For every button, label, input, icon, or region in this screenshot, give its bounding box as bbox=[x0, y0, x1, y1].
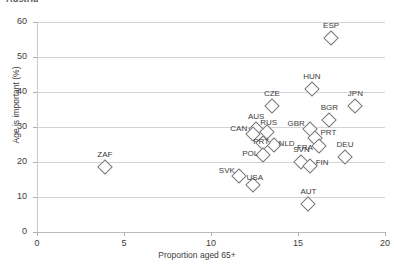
x-tick-label-20: 20 bbox=[370, 238, 394, 248]
y-axis-label: Age is important (%) bbox=[11, 45, 21, 165]
gridline-y-20 bbox=[37, 162, 385, 163]
point-label-aut: AUT bbox=[300, 187, 316, 196]
y-tick-label-40: 40 bbox=[1, 86, 27, 96]
x-tick-label-0: 0 bbox=[22, 238, 52, 248]
data-point-jpn bbox=[348, 98, 364, 114]
scatter-chart-figure: Austria Age is important (%) Proportion … bbox=[0, 0, 394, 267]
point-label-bgr: BGR bbox=[321, 103, 338, 112]
point-label-svn: SVN bbox=[293, 145, 309, 154]
gridline-y-10 bbox=[37, 197, 385, 198]
data-point-aut bbox=[301, 196, 317, 212]
point-label-esp: ESP bbox=[323, 21, 339, 30]
data-point-hun bbox=[304, 81, 320, 97]
point-label-usa: USA bbox=[247, 173, 263, 182]
point-label-can: CAN bbox=[230, 124, 247, 133]
x-tickmark-20 bbox=[385, 232, 386, 236]
data-point-cze bbox=[264, 98, 280, 114]
point-label-gbr: GBR bbox=[288, 119, 305, 128]
point-label-nld: NLD bbox=[279, 139, 295, 148]
y-tick-label-30: 30 bbox=[1, 121, 27, 131]
gridline-y-50 bbox=[37, 57, 385, 58]
point-label-fin: FIN bbox=[316, 158, 329, 167]
point-label-prt: PRT bbox=[320, 128, 336, 137]
point-label-pol: POL bbox=[242, 149, 258, 158]
x-axis-label: Proportion aged 65+ bbox=[0, 250, 394, 260]
point-label-zaf: ZAF bbox=[97, 150, 112, 159]
point-label-hun: HUN bbox=[303, 72, 320, 81]
x-tick-label-5: 5 bbox=[109, 238, 139, 248]
point-label-deu: DEU bbox=[337, 140, 354, 149]
y-tick-label-10: 10 bbox=[1, 191, 27, 201]
y-tick-label-0: 0 bbox=[1, 226, 27, 236]
point-label-prt2: PRT bbox=[253, 137, 269, 146]
x-tickmark-10 bbox=[211, 232, 212, 236]
cut-off-title: Austria bbox=[6, 0, 38, 2]
x-tick-label-10: 10 bbox=[196, 238, 226, 248]
point-label-rus: RUS bbox=[260, 118, 277, 127]
point-label-svk: SVK bbox=[219, 166, 235, 175]
x-tickmark-5 bbox=[124, 232, 125, 236]
y-tick-label-60: 60 bbox=[1, 16, 27, 26]
x-tickmark-0 bbox=[37, 232, 38, 236]
data-point-bgr bbox=[322, 112, 338, 128]
x-tickmark-15 bbox=[298, 232, 299, 236]
point-label-cze: CZE bbox=[264, 89, 280, 98]
point-label-jpn: JPN bbox=[348, 89, 363, 98]
y-axis-spine bbox=[37, 22, 38, 232]
data-point-esp bbox=[323, 30, 339, 46]
y-tick-label-50: 50 bbox=[1, 51, 27, 61]
gridline-y-40 bbox=[37, 92, 385, 93]
y-tick-label-20: 20 bbox=[1, 156, 27, 166]
x-tick-label-15: 15 bbox=[283, 238, 313, 248]
